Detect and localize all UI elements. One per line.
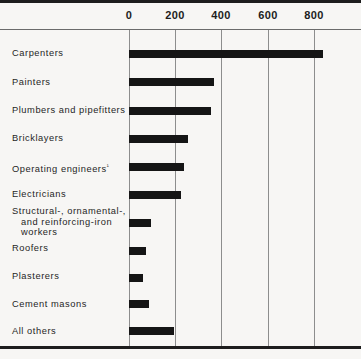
bar-plasterers xyxy=(129,274,143,282)
x-tick-label-200: 200 xyxy=(165,9,185,21)
structural-label-line-3: workers xyxy=(12,227,126,238)
bar-painters xyxy=(129,78,214,86)
category-label-roofers: Roofers xyxy=(12,243,48,254)
category-label-painters: Painters xyxy=(12,77,51,88)
bar-operating-engineers xyxy=(129,163,184,171)
category-label-operating-engineers: Operating engineers¹ xyxy=(12,161,109,175)
structural-label-line-2: and reinforcing-iron xyxy=(12,217,126,228)
bar-electricians xyxy=(129,191,181,199)
chart-top-border xyxy=(0,0,361,3)
gridline-600 xyxy=(268,30,269,346)
category-label-bricklayers: Bricklayers xyxy=(12,133,64,144)
category-label-all-others: All others xyxy=(12,326,56,337)
bar-plumbers-and-pipefitters xyxy=(129,107,211,115)
category-label-plasterers: Plasterers xyxy=(12,271,59,282)
gridline-800 xyxy=(314,30,315,346)
bar-bricklayers xyxy=(129,135,188,143)
category-label-structural-ornamental-reinforcing-iron-workers: Structural-, ornamental-, and reinforcin… xyxy=(12,206,126,238)
x-tick-label-0: 0 xyxy=(126,9,133,21)
bar-roofers xyxy=(129,247,146,255)
gridline-400 xyxy=(221,30,222,346)
category-label-carpenters: Carpenters xyxy=(12,48,64,59)
bar-carpenters xyxy=(129,50,323,58)
x-tick-label-400: 400 xyxy=(211,9,231,21)
bar-cement-masons xyxy=(129,300,149,308)
category-label-operating-engineers-text: Operating engineers xyxy=(12,164,107,174)
structural-label-line-1: Structural-, ornamental-, xyxy=(12,206,126,216)
category-label-plumbers-and-pipefitters: Plumbers and pipefitters xyxy=(12,105,125,116)
x-tick-label-600: 600 xyxy=(258,9,278,21)
category-label-electricians: Electricians xyxy=(12,189,66,200)
footnote-mark: ¹ xyxy=(107,163,109,169)
bar-all-others xyxy=(129,327,174,335)
axis-header-divider xyxy=(0,29,361,30)
bar-structural-ornamental-reinforcing-iron-workers xyxy=(129,219,151,227)
category-label-cement-masons: Cement masons xyxy=(12,299,87,310)
chart-bottom-border xyxy=(0,346,361,349)
bar-chart: 0 200 400 600 800 Carpenters Painters Pl… xyxy=(0,0,361,359)
x-tick-label-800: 800 xyxy=(304,9,324,21)
